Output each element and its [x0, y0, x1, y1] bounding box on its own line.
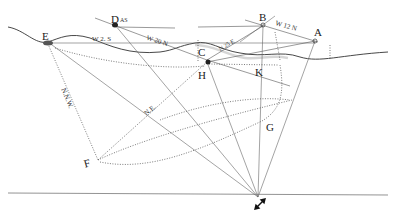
point-label-c: C — [198, 47, 205, 58]
point-label-b: B — [259, 12, 266, 23]
diagram-canvas: E D AS B A C H K G F W 2. S W 20 N N 25 … — [0, 0, 399, 220]
point-label-d: D — [111, 14, 119, 25]
point-label-d-superscript: AS — [120, 17, 128, 23]
station-markers — [43, 23, 317, 65]
point-label-g: G — [266, 122, 274, 133]
survey-diagram — [0, 0, 399, 220]
baseline — [8, 193, 388, 195]
north-south-arrow-icon — [255, 199, 265, 209]
point-label-k: K — [255, 67, 263, 78]
point-label-h: H — [198, 70, 206, 81]
point-label-a: A — [314, 27, 322, 38]
bearing-e: W 2. S — [92, 36, 111, 43]
point-label-e: E — [42, 31, 49, 42]
